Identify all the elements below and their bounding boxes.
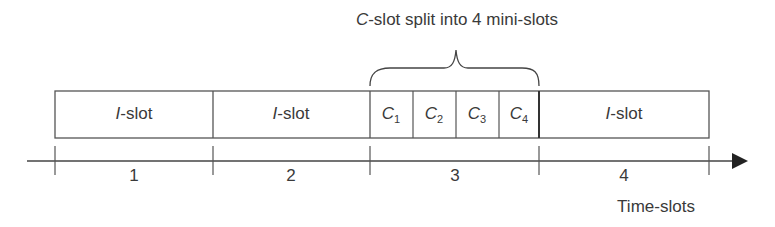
- slot-1-label: I-slot: [116, 104, 153, 124]
- brace-icon: [370, 50, 539, 86]
- minislot-c3: C3: [468, 104, 486, 125]
- timeslot-number-2: 2: [286, 166, 295, 186]
- arrowhead-icon: [732, 153, 748, 169]
- minislot-c4: C4: [510, 104, 528, 125]
- timeslot-number-3: 3: [450, 166, 459, 186]
- minislot-c1: C1: [382, 104, 400, 125]
- timeslot-number-4: 4: [619, 166, 628, 186]
- diagram-title: C-slot split into 4 mini-slots: [356, 10, 558, 30]
- timeslot-number-1: 1: [129, 166, 138, 186]
- axis-label: Time-slots: [617, 197, 695, 217]
- minislot-c2: C2: [425, 104, 443, 125]
- slot-2-label: I-slot: [273, 104, 310, 124]
- slot-4-label: I-slot: [606, 104, 643, 124]
